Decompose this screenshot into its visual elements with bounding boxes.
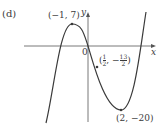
y-axis-label: y [81,7,86,17]
x-axis-label: x [151,47,156,57]
max-point [71,23,74,26]
y-axis-arrow-icon [86,12,90,17]
part-label: (d) [2,8,16,19]
min-point-label: (2, −20) [116,113,153,123]
max-point-label: (−1, 7) [48,10,80,20]
y-den: 2 [122,61,126,67]
separator: , − [106,55,119,65]
inflection-point-label: (12, −132) [99,54,131,67]
paren-close: ) [127,55,131,65]
inflection-point [96,66,99,69]
cubic-graph-diagram: (d) (−1, 7) y x 0 (12, −132) (2, −20) [0,0,161,132]
min-point [120,109,123,112]
origin-label: 0 [82,47,88,57]
